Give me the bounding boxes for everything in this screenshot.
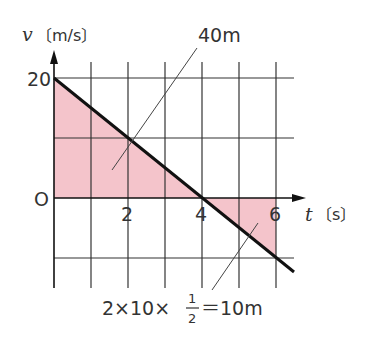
y-axis-arrow-icon [50, 50, 58, 64]
tick-label-6: 6 [269, 203, 281, 225]
tick-label-4: 4 [195, 203, 207, 225]
y-axis-symbol: v [22, 23, 33, 45]
tick-label-2: 2 [121, 203, 133, 225]
area-label-40m: 40m [198, 24, 241, 46]
velocity-time-chart: v 〔m/s〕 20 O 2 4 6 t 〔s〕 40m 2×10× 1 2 ＝… [0, 0, 367, 338]
x-axis-arrow-icon [292, 194, 306, 202]
x-axis-symbol: t [305, 203, 313, 225]
x-axis-unit: 〔s〕 [316, 205, 356, 224]
fraction-numerator: 1 [188, 291, 196, 306]
tick-label-20: 20 [27, 68, 51, 90]
y-axis-unit: 〔m/s〕 [36, 26, 97, 45]
leader-line-10m [212, 223, 258, 290]
origin-label: O [34, 188, 49, 210]
leader-line-40m [112, 48, 197, 170]
area-label-10m-suffix: ＝10m [201, 297, 263, 319]
fraction-denominator: 2 [188, 311, 196, 326]
area-label-10m-prefix: 2×10× [102, 297, 170, 319]
